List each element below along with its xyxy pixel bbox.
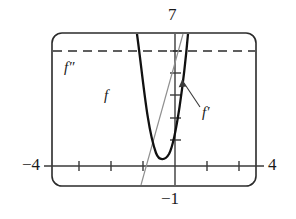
graph-figure: 7 −1 −4 4 f″ f f′ bbox=[0, 0, 296, 219]
curve-label-f-prime: f′ bbox=[202, 105, 209, 120]
curve-label-f-double-prime: f″ bbox=[64, 60, 74, 75]
y-min-label: −1 bbox=[161, 190, 179, 207]
plot-canvas bbox=[0, 0, 296, 219]
y-max-label: 7 bbox=[168, 6, 177, 23]
x-max-label: 4 bbox=[268, 156, 277, 173]
curve-label-f: f bbox=[104, 88, 108, 103]
viewport-frame bbox=[52, 33, 256, 186]
leader-arrowhead bbox=[179, 80, 187, 87]
x-min-label: −4 bbox=[22, 156, 40, 173]
